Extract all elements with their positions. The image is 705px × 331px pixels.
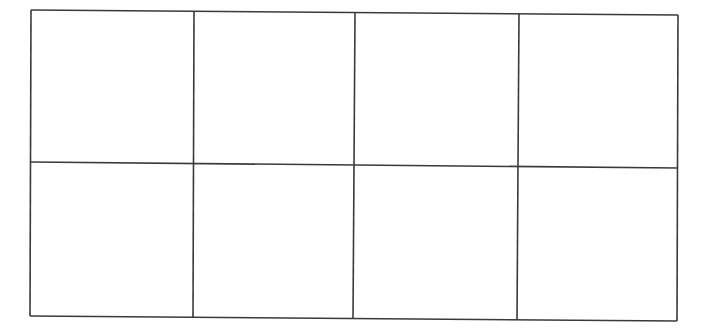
- grid-cell-r1-c1: [31, 11, 193, 162]
- grid-cell-r2-c3: [355, 165, 518, 318]
- grid-cell-r2-c2: [194, 164, 354, 317]
- grid-cell-r2-c1: [31, 163, 193, 316]
- grid-cell-r1-c3: [355, 13, 518, 164]
- grid-cell-r1-c2: [194, 12, 354, 163]
- grid-cell-r1-c4: [519, 15, 677, 166]
- grid-diagram: [0, 0, 705, 331]
- grid-cell-r2-c4: [519, 167, 677, 320]
